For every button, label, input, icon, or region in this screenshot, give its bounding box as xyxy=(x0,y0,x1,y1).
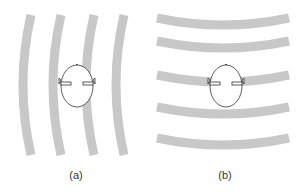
panel-a: (a) xyxy=(0,0,151,192)
panel-a-caption: (a) xyxy=(56,169,96,181)
wavefront-diagram-a xyxy=(0,0,151,192)
panel-b-caption: (b) xyxy=(205,169,245,181)
panel-b: (b) xyxy=(151,0,302,192)
head-icon xyxy=(208,64,244,107)
wavefront-diagram-b xyxy=(151,0,302,192)
